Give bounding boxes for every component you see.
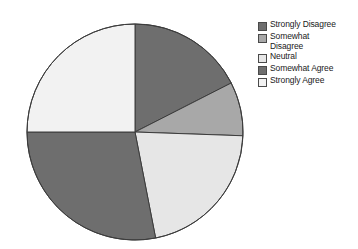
chart-screenshot: Strongly DisagreeSomewhat DisagreeNeutra… xyxy=(0,0,358,249)
legend-item[interactable]: Neutral xyxy=(258,52,358,63)
pie-chart-svg xyxy=(0,0,252,249)
legend-item-label: Strongly Disagree xyxy=(270,20,336,30)
legend-swatch-icon xyxy=(258,78,267,87)
pie-chart-area xyxy=(0,0,252,249)
pie-slice[interactable] xyxy=(27,132,156,240)
legend-swatch-icon xyxy=(258,34,267,43)
legend-swatch-icon xyxy=(258,66,267,75)
legend-item-label: Somewhat Disagree xyxy=(270,32,309,51)
legend-item-label: Neutral xyxy=(270,52,297,62)
pie-slice-group xyxy=(27,24,243,240)
legend-item[interactable]: Somewhat Disagree xyxy=(258,32,358,51)
legend-swatch-icon xyxy=(258,22,267,31)
chart-legend: Strongly DisagreeSomewhat DisagreeNeutra… xyxy=(258,20,358,88)
legend-item-label: Somewhat Agree xyxy=(270,64,333,74)
legend-swatch-icon xyxy=(258,54,267,63)
legend-item[interactable]: Strongly Disagree xyxy=(258,20,358,31)
legend-item[interactable]: Somewhat Agree xyxy=(258,64,358,75)
legend-item-label: Strongly Agree xyxy=(270,76,324,86)
pie-slice[interactable] xyxy=(27,24,135,132)
legend-item[interactable]: Strongly Agree xyxy=(258,76,358,87)
